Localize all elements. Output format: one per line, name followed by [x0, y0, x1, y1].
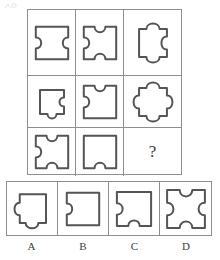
puzzle-piece-shape [34, 84, 70, 120]
option-label-c: C [109, 238, 161, 254]
answer-option-b[interactable] [58, 182, 109, 235]
puzzle-piece-shape [165, 188, 207, 230]
matrix-cell-1-2 [76, 10, 124, 76]
matrix-cell-3-2 [76, 128, 124, 176]
option-label-a: A [6, 238, 58, 254]
matrix-cell-3-3-question[interactable]: ? [124, 128, 181, 176]
answer-option-labels: A B C D [6, 238, 212, 254]
answer-options-row [6, 181, 212, 236]
answer-option-c[interactable] [109, 182, 160, 235]
puzzle-piece-shape [131, 80, 175, 124]
matrix-grid: ? [27, 9, 182, 175]
puzzle-piece-shape [82, 25, 118, 61]
puzzle-piece-shape [65, 191, 101, 227]
matrix-cell-3-1 [28, 128, 76, 176]
puzzle-piece-shape [115, 190, 153, 228]
puzzle-piece-shape [34, 134, 70, 170]
faint-artifact-icon [4, 2, 18, 10]
option-label-d: D [161, 238, 213, 254]
matrix-cell-1-1 [28, 10, 76, 76]
puzzle-piece-shape [11, 188, 53, 230]
matrix-cell-1-3 [124, 10, 181, 76]
matrix-cell-2-2 [76, 76, 124, 128]
puzzle-piece-shape [131, 21, 175, 65]
puzzle-piece-shape [82, 134, 118, 170]
puzzle-piece-shape [82, 84, 118, 120]
puzzle-piece-shape [34, 25, 70, 61]
puzzle-matrix-test: ? A B C D [0, 0, 220, 260]
answer-option-d[interactable] [160, 182, 211, 235]
matrix-cell-2-3 [124, 76, 181, 128]
option-label-b: B [58, 238, 110, 254]
question-mark: ? [124, 128, 181, 176]
matrix-cell-2-1 [28, 76, 76, 128]
answer-option-a[interactable] [7, 182, 58, 235]
